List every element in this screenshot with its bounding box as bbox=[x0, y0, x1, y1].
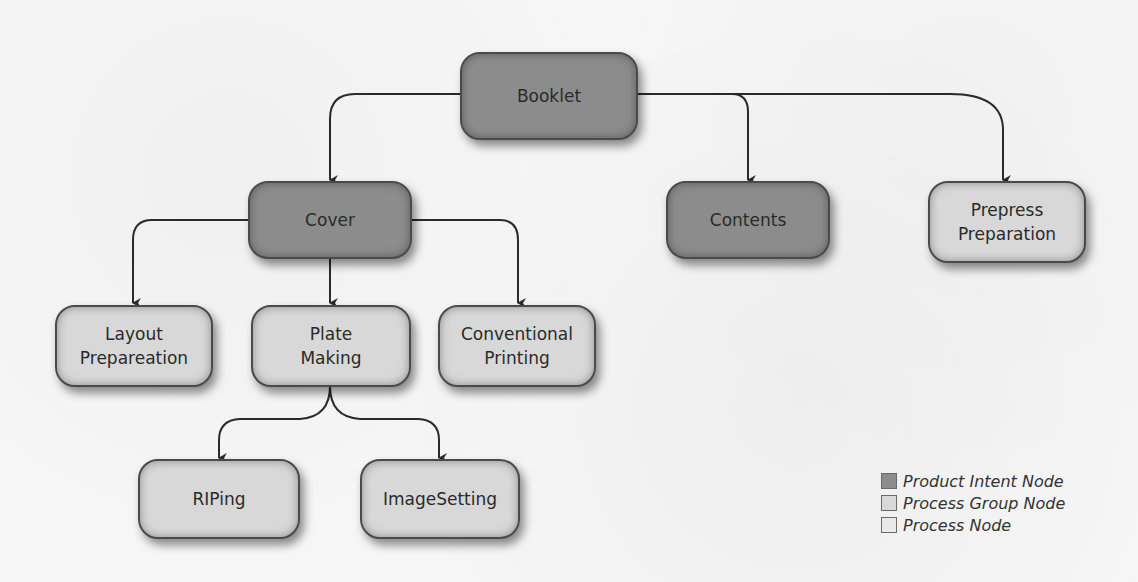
legend: Product Intent Node Process Group Node P… bbox=[881, 470, 1065, 536]
node-plate-label-line1: Plate bbox=[310, 322, 353, 346]
legend-label-process-group: Process Group Node bbox=[903, 494, 1065, 513]
node-printing-label-line1: Conventional bbox=[461, 322, 573, 346]
legend-swatch-product-intent bbox=[881, 473, 897, 489]
node-booklet-label: Booklet bbox=[517, 84, 581, 108]
edge-plate-riping bbox=[219, 386, 330, 458]
node-contents[interactable]: Contents bbox=[666, 181, 830, 259]
node-prepress-label-line1: Prepress bbox=[971, 198, 1044, 222]
node-prepress-label-line2: Preparation bbox=[958, 222, 1056, 246]
node-cover[interactable]: Cover bbox=[248, 181, 412, 259]
node-imagesetting[interactable]: ImageSetting bbox=[360, 459, 520, 539]
edge-booklet-prepress bbox=[732, 94, 1003, 180]
node-layout-label-line1: Layout bbox=[105, 322, 163, 346]
legend-swatch-process-group bbox=[881, 495, 897, 511]
edge-cover-printing bbox=[412, 220, 518, 303]
node-layout-prepareation[interactable]: Layout Prepareation bbox=[55, 305, 213, 387]
edge-booklet-cover bbox=[330, 94, 460, 180]
edge-booklet-contents bbox=[638, 94, 748, 180]
legend-item-product-intent: Product Intent Node bbox=[881, 470, 1065, 492]
node-riping[interactable]: RIPing bbox=[138, 459, 300, 539]
node-booklet[interactable]: Booklet bbox=[460, 52, 638, 140]
edge-plate-imagesetting bbox=[330, 386, 439, 458]
legend-swatch-process bbox=[881, 517, 897, 533]
legend-item-process-group: Process Group Node bbox=[881, 492, 1065, 514]
node-contents-label: Contents bbox=[710, 208, 786, 232]
node-cover-label: Cover bbox=[305, 208, 355, 232]
node-plate-making[interactable]: Plate Making bbox=[251, 305, 411, 387]
node-conventional-printing[interactable]: Conventional Printing bbox=[438, 305, 596, 387]
legend-item-process: Process Node bbox=[881, 514, 1065, 536]
node-imagesetting-label: ImageSetting bbox=[383, 487, 497, 511]
node-riping-label: RIPing bbox=[193, 487, 246, 511]
node-plate-label-line2: Making bbox=[300, 346, 361, 370]
edge-cover-layout bbox=[133, 220, 248, 303]
node-prepress-preparation[interactable]: Prepress Preparation bbox=[928, 181, 1086, 263]
node-layout-label-line2: Prepareation bbox=[80, 346, 188, 370]
node-printing-label-line2: Printing bbox=[484, 346, 549, 370]
legend-label-process: Process Node bbox=[903, 516, 1011, 535]
legend-label-product-intent: Product Intent Node bbox=[903, 472, 1064, 491]
